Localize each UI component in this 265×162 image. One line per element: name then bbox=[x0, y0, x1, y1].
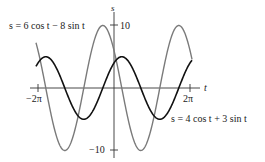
axis-label-t: t bbox=[204, 82, 207, 93]
axis-label-s: s bbox=[111, 3, 115, 13]
curve1-label: s = 6 cos t − 8 sin t bbox=[9, 20, 85, 31]
tick-label-neg2pi: −2π bbox=[26, 93, 42, 104]
chart: s t 10 −10 −2π 2π s = 6 cos t − 8 sin t … bbox=[0, 0, 265, 162]
tick-label-pos2pi: 2π bbox=[183, 93, 193, 104]
curve2-label: s = 4 cos t + 3 sin t bbox=[171, 113, 247, 124]
tick-label-neg10: −10 bbox=[89, 144, 105, 155]
tick-label-pos10: 10 bbox=[120, 20, 130, 31]
